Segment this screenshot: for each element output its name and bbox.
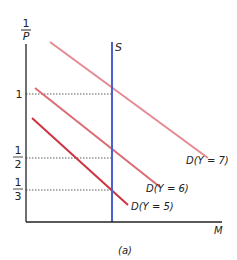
label-d-y7: D(Y = 7) bbox=[186, 155, 229, 166]
money-market-chart: 1 P S 1 1 2 1 3 D(Y = 7) D(Y = 6) D(Y = … bbox=[0, 0, 237, 260]
y-label-numerator: 1 bbox=[23, 17, 30, 30]
label-d-y6: D(Y = 6) bbox=[146, 183, 189, 194]
y-label-denominator: P bbox=[23, 30, 30, 43]
y-tick-third: 1 3 bbox=[13, 176, 23, 203]
y-tick-half: 1 2 bbox=[13, 144, 23, 171]
y-tick-third-den: 3 bbox=[15, 190, 22, 203]
y-tick-half-den: 2 bbox=[15, 158, 22, 171]
supply-label: S bbox=[115, 41, 122, 54]
demand-curve-y5 bbox=[32, 118, 128, 205]
y-tick-1: 1 bbox=[16, 88, 23, 101]
y-axis-label: 1 P bbox=[21, 17, 31, 43]
figure-caption: (a) bbox=[118, 245, 132, 256]
y-tick-half-num: 1 bbox=[15, 144, 22, 157]
label-d-y5: D(Y = 5) bbox=[131, 201, 174, 212]
demand-curve-y7 bbox=[50, 42, 208, 158]
x-axis-label: M bbox=[214, 225, 223, 236]
y-tick-third-num: 1 bbox=[15, 176, 22, 189]
